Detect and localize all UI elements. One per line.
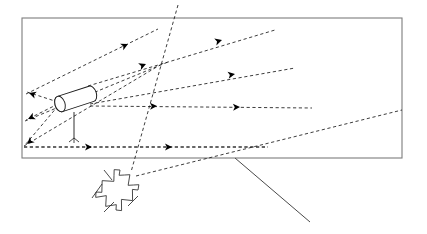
arrow-right-low-2 <box>233 103 240 110</box>
diagram-root <box>0 0 427 234</box>
arrow-upper-fan-1 <box>120 41 129 51</box>
arrow-upper-fan-3 <box>214 37 223 46</box>
zigzag-strand-upper-right <box>119 170 139 190</box>
arrow-right-mid <box>227 70 235 78</box>
ray-right-upper <box>88 30 275 86</box>
ray-right-low <box>90 106 312 108</box>
arrow-left-2 <box>26 113 35 122</box>
ray-scatter-to-right <box>136 110 402 176</box>
ray-right-mid <box>90 68 295 104</box>
zigzag-tail-left <box>92 184 102 198</box>
zigzag-strand-lower-right <box>116 189 138 210</box>
zigzag-tail-right <box>128 196 138 206</box>
arrowheads-layer <box>25 37 240 151</box>
ray-long-up-2 <box>25 62 168 121</box>
zigzag-strand-lower-left <box>96 192 117 210</box>
zigzag-strand-upper-left <box>96 170 120 193</box>
arrow-right-low <box>150 102 157 109</box>
source-device <box>53 85 99 143</box>
zigzag-scatterer <box>92 170 139 212</box>
ray-propagation-diagram <box>0 0 427 234</box>
arrow-left-3 <box>25 137 35 147</box>
ray-long-up-3 <box>24 65 160 146</box>
pointer-leader-line <box>235 158 310 222</box>
mast-foot-left <box>69 138 74 142</box>
zigzag-tail-top <box>104 170 112 180</box>
arrow-base-1 <box>85 143 92 150</box>
boundary-rectangle <box>22 18 402 158</box>
mast-foot-right <box>74 138 79 142</box>
ray-long-up-1 <box>26 29 158 94</box>
emitter-cylinder <box>53 85 99 114</box>
